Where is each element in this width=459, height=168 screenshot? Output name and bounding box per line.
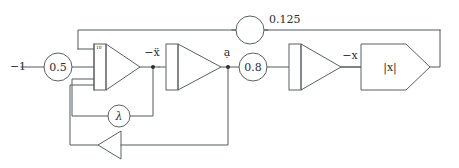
- amp3-triangle[interactable]: [301, 44, 341, 90]
- wire-right-edge-drop: [430, 30, 440, 67]
- amp1-coeff-label: 10: [96, 45, 102, 50]
- block-diagram-canvas: −1 0.5 10 −ẍ ạ 0.8 0.125 λ −x |x|: [0, 0, 459, 168]
- node-xdot: [226, 65, 230, 69]
- abs-block-label: |x|: [383, 61, 397, 75]
- node-xddot: [151, 65, 155, 69]
- diagram-svg: −1 0.5 10 −ẍ ạ 0.8 0.125 λ −x |x|: [0, 0, 459, 168]
- signal-label-xdot: ạ: [224, 46, 231, 59]
- amp3-input-bar: [289, 44, 301, 90]
- signal-label-xddot: −ẍ: [144, 46, 160, 59]
- input-label: −1: [10, 60, 26, 73]
- gain-circle-feedback[interactable]: [236, 16, 264, 44]
- inverter-triangle[interactable]: [98, 131, 121, 159]
- amp2-input-bar: [166, 44, 178, 90]
- wire-inverter-to-amp1: [70, 85, 98, 145]
- signal-label-neg-x: −x: [342, 49, 358, 62]
- wire-xddot-to-lambda: [130, 67, 153, 116]
- gain-input-label: 0.5: [49, 61, 67, 74]
- amp1-triangle[interactable]: [106, 44, 140, 90]
- gain-feedback-label: 0.125: [269, 13, 301, 26]
- gain-mid-label: 0.8: [244, 61, 262, 74]
- amp1-input-bar: [94, 44, 106, 90]
- amp2-triangle[interactable]: [178, 44, 221, 90]
- gain-lambda-label: λ: [115, 110, 123, 123]
